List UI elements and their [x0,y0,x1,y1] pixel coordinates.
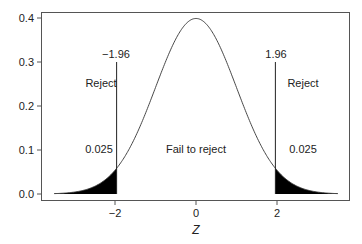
right-reject-label: Reject [287,77,318,89]
fail-to-reject-label: Fail to reject [166,143,226,155]
right-critical-value-label: 1.96 [265,48,286,60]
y-tick-label: 0.0 [19,188,34,200]
y-tick-label: 0.1 [19,144,34,156]
x-tick-label: 0 [193,207,199,219]
plot-frame [42,13,350,201]
left-critical-value-label: −1.96 [102,48,130,60]
normal-distribution-chart: 0.0 0.1 0.2 0.3 0.4 −2 0 2 Z −1.96 1.96 … [0,0,362,244]
y-tick-label: 0.4 [19,12,34,24]
x-tick-label: 2 [274,207,280,219]
left-reject-label: Reject [85,77,116,89]
x-axis-title: Z [191,223,200,237]
x-tick-label: −2 [109,207,122,219]
y-tick-label: 0.2 [19,100,34,112]
density-curve [54,18,338,193]
x-axis: −2 0 2 [109,201,280,219]
right-area-label: 0.025 [289,143,317,155]
y-tick-label: 0.3 [19,56,34,68]
left-area-label: 0.025 [85,143,113,155]
y-axis: 0.0 0.1 0.2 0.3 0.4 [19,12,41,200]
